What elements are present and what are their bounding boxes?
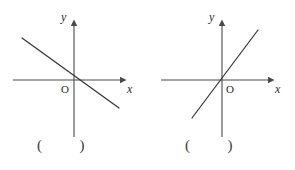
answer-blank-right[interactable]: ( ) <box>185 138 233 153</box>
figure-row: y x O ( ) y x O ( ) <box>0 0 295 170</box>
x-axis-label: x <box>127 83 132 95</box>
graph-line-positive-slope <box>192 30 258 118</box>
origin-label: O <box>61 84 69 95</box>
x-axis-label: x <box>275 83 280 95</box>
y-axis-label: y <box>61 11 66 23</box>
answer-blank-left[interactable]: ( ) <box>37 138 85 153</box>
figure-right: y x O ( ) <box>147 0 294 170</box>
origin-label: O <box>226 84 234 95</box>
y-axis-label: y <box>209 11 214 23</box>
figure-left: y x O ( ) <box>0 0 147 170</box>
graph-line-negative-slope <box>22 38 119 108</box>
